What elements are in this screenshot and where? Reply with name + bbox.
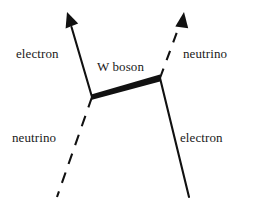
label-electron-incoming: electron bbox=[16, 47, 59, 60]
feynman-diagram: electron W boson neutrino neutrino elect… bbox=[0, 0, 253, 204]
electron-upper-left-line bbox=[66, 12, 92, 97]
neutrino-upper-right-line bbox=[160, 12, 188, 78]
neutrino-lower-left-line bbox=[57, 97, 92, 197]
arrowhead-up-right bbox=[175, 12, 188, 28]
label-neutrino-incoming: neutrino bbox=[183, 47, 227, 60]
feynman-diagram-canvas bbox=[0, 0, 253, 204]
w-boson-propagator bbox=[92, 75, 160, 100]
label-electron-outgoing: electron bbox=[180, 131, 223, 144]
label-w-boson: W boson bbox=[97, 60, 144, 73]
label-neutrino-outgoing: neutrino bbox=[12, 131, 56, 144]
